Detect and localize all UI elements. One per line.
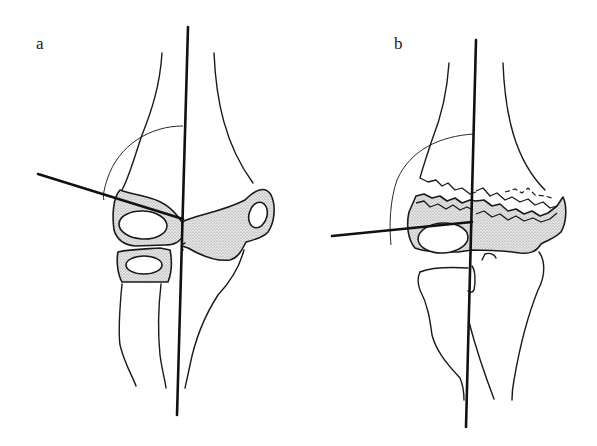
fracture-line-upper-b <box>420 178 476 194</box>
humerus-left-border-b <box>420 63 449 178</box>
ulna-border-a <box>182 243 244 388</box>
humerus-right-border-a <box>214 53 253 183</box>
capitellar-line-a <box>38 174 183 219</box>
ulna-right-border-b <box>512 252 544 400</box>
radius-head-b <box>418 272 464 400</box>
humerus-left-border-a <box>122 53 162 190</box>
humerus-right-border-b <box>503 63 545 190</box>
elbow-diagram-figure: a b <box>0 0 597 446</box>
radius-top-b <box>420 268 468 272</box>
radius-left-border-a <box>119 284 136 386</box>
panel-b-drawing <box>332 40 566 427</box>
diagram-canvas <box>0 0 597 446</box>
reference-circle-arc-a <box>103 126 183 200</box>
coronoid-b <box>482 253 496 260</box>
radius-right-border-a <box>159 284 166 388</box>
radial-ossification-center-a <box>126 256 162 274</box>
panel-a-drawing <box>38 27 274 415</box>
ulna-left-border-b <box>469 322 494 399</box>
